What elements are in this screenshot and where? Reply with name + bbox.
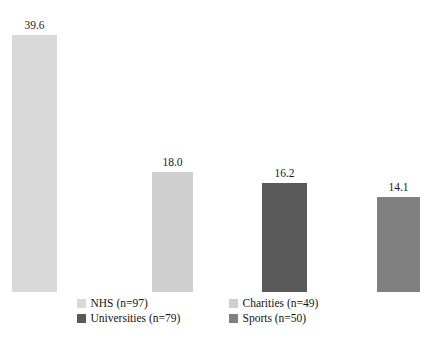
bar-value-nhs: 39.6	[24, 20, 44, 32]
legend-row: Universities (n=79) Sports (n=50)	[77, 313, 363, 325]
legend-row: NHS (n=97) Charities (n=49)	[77, 298, 363, 310]
bar-value-universities: 16.2	[274, 168, 294, 180]
legend-item-sports[interactable]: Sports (n=50)	[229, 313, 363, 325]
bar-group-universities: 16.2	[262, 183, 307, 292]
legend-label-universities: Universities (n=79)	[91, 313, 181, 325]
legend-swatch-icon-nhs	[77, 299, 86, 308]
bar-nhs[interactable]	[12, 35, 57, 292]
chart-legend: NHS (n=97) Charities (n=49) Universities…	[0, 298, 439, 324]
bar-group-nhs: 39.6	[12, 35, 57, 292]
legend-swatch-icon-sports	[229, 314, 238, 323]
legend-item-nhs[interactable]: NHS (n=97)	[77, 298, 211, 310]
plot-area: 39.6 18.0 16.2 14.1	[0, 0, 439, 292]
bar-universities[interactable]	[262, 183, 307, 292]
legend-label-charities: Charities (n=49)	[243, 298, 319, 310]
legend-label-nhs: NHS (n=97)	[91, 298, 148, 310]
legend-item-charities[interactable]: Charities (n=49)	[229, 298, 363, 310]
bar-charities[interactable]	[152, 172, 193, 292]
legend-swatch-icon-universities	[77, 314, 86, 323]
bar-value-charities: 18.0	[162, 157, 182, 169]
legend-label-sports: Sports (n=50)	[243, 313, 307, 325]
bar-chart: 39.6 18.0 16.2 14.1 NHS (n=97) Charities…	[0, 0, 439, 344]
bar-sports[interactable]	[377, 197, 420, 292]
bar-group-sports: 14.1	[377, 197, 420, 292]
bar-group-charities: 18.0	[152, 172, 193, 292]
legend-item-universities[interactable]: Universities (n=79)	[77, 313, 211, 325]
legend-swatch-icon-charities	[229, 299, 238, 308]
bar-value-sports: 14.1	[388, 182, 408, 194]
